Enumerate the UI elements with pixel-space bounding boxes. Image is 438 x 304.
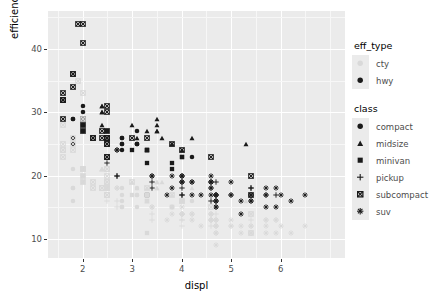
data-point <box>70 167 75 172</box>
data-point <box>100 167 105 172</box>
data-point <box>214 243 219 248</box>
legend-item-compact[interactable]: compact <box>352 118 438 135</box>
square-icon <box>352 152 369 169</box>
x-axis-title: displ <box>48 280 345 291</box>
legend-group-eff-type: eff_type ctyhwy <box>352 40 438 89</box>
legend-item-label: minivan <box>376 156 410 166</box>
y-tick-label: 30 <box>31 107 42 117</box>
data-point <box>209 211 214 216</box>
data-point <box>214 192 219 197</box>
data-point <box>169 192 174 197</box>
data-point <box>60 91 65 96</box>
data-point <box>144 198 149 203</box>
data-point <box>70 186 75 191</box>
data-point <box>248 186 253 191</box>
data-point <box>214 198 219 203</box>
legend: eff_type ctyhwy class compactmidsizemini… <box>352 40 438 234</box>
data-point <box>115 186 120 191</box>
data-point <box>189 198 194 203</box>
data-point <box>209 179 214 184</box>
data-point <box>144 198 149 203</box>
data-point <box>134 192 139 197</box>
data-point <box>263 192 268 197</box>
y-tick-label: 10 <box>31 234 42 244</box>
data-point <box>90 179 95 184</box>
legend-item-midsize[interactable]: midsize <box>352 135 438 152</box>
data-point <box>134 186 139 191</box>
legend-title-eff-type: eff_type <box>354 40 438 51</box>
data-point <box>209 179 214 184</box>
data-point <box>100 135 105 140</box>
y-tick-label: 40 <box>31 44 42 54</box>
data-point <box>70 72 75 77</box>
data-point <box>288 230 293 235</box>
gridline-y <box>48 17 345 18</box>
circle-icon <box>352 55 369 72</box>
legend-item-label: cty <box>376 59 389 69</box>
legend-item-subcompact[interactable]: subcompact <box>352 186 438 203</box>
data-point <box>248 186 253 191</box>
data-point <box>189 179 194 184</box>
data-point <box>100 129 105 134</box>
data-point <box>189 154 194 159</box>
data-point <box>189 179 194 184</box>
data-point <box>70 84 75 89</box>
legend-item-suv[interactable]: suv <box>352 203 438 220</box>
data-point <box>100 103 105 108</box>
gridline-y <box>48 81 345 82</box>
data-point <box>238 198 243 203</box>
data-point <box>214 217 219 222</box>
data-point <box>159 179 164 184</box>
data-point <box>100 186 105 191</box>
data-point <box>209 192 214 197</box>
legend-item-label: compact <box>376 122 413 132</box>
data-point <box>100 167 105 172</box>
data-point <box>60 116 65 121</box>
gridline-y <box>48 207 345 208</box>
data-point <box>209 198 214 203</box>
data-point <box>60 97 65 102</box>
data-point <box>90 135 95 140</box>
data-point <box>75 21 80 26</box>
data-point <box>144 186 149 191</box>
data-point <box>144 135 149 140</box>
data-point <box>144 148 149 153</box>
data-point <box>209 217 214 222</box>
data-point <box>115 186 120 191</box>
data-point <box>263 224 268 229</box>
x-tick-label: 4 <box>179 264 184 274</box>
legend-item-hwy[interactable]: hwy <box>352 72 438 89</box>
data-point <box>60 97 65 102</box>
data-point <box>169 211 174 216</box>
data-point <box>60 148 65 153</box>
data-point <box>248 198 253 203</box>
plus-icon <box>352 169 369 186</box>
square-x-icon <box>352 186 369 203</box>
data-point <box>214 224 219 229</box>
data-point <box>115 148 120 153</box>
data-point <box>164 192 169 197</box>
y-tick-label: 20 <box>31 171 42 181</box>
legend-item-minivan[interactable]: minivan <box>352 152 438 169</box>
data-point <box>144 192 149 197</box>
data-point <box>248 211 253 216</box>
legend-item-pickup[interactable]: pickup <box>352 169 438 186</box>
data-point <box>120 192 125 197</box>
data-point <box>169 186 174 191</box>
gridline-y <box>48 144 345 145</box>
asterisk-icon <box>352 203 369 220</box>
data-point <box>90 135 95 140</box>
legend-item-cty[interactable]: cty <box>352 55 438 72</box>
data-point <box>209 186 214 191</box>
data-point <box>149 217 154 222</box>
data-point <box>144 160 149 165</box>
data-point <box>263 186 268 191</box>
data-point <box>144 148 149 153</box>
data-point <box>209 154 214 159</box>
data-point <box>60 148 65 153</box>
data-point <box>273 192 278 197</box>
data-point <box>144 192 149 197</box>
data-point <box>144 148 149 153</box>
chart-root: displ efficiency eff_type ctyhwy class c… <box>0 0 438 304</box>
data-point <box>120 148 125 153</box>
